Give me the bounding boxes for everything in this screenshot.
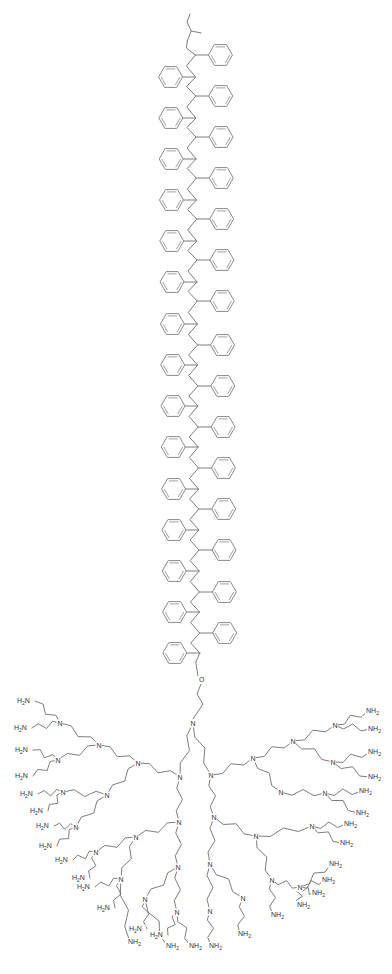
aromatic-double-bond: [215, 550, 220, 558]
aromatic-double-bond: [176, 159, 181, 167]
aminopropyl-bond: [325, 789, 361, 795]
aromatic-double-bond: [179, 653, 184, 661]
propyl-bond: [136, 822, 179, 837]
phenyl-ring-right: [210, 250, 234, 271]
nitrogen-atom-label: N: [212, 814, 217, 821]
aromatic-double-bond: [179, 530, 184, 538]
nitrogen-atom-label: N: [323, 790, 328, 797]
aromatic-double-bond: [164, 447, 169, 455]
phenyl-ring-right: [212, 540, 236, 561]
aromatic-double-bond: [213, 301, 218, 309]
aromatic-double-bond: [162, 241, 167, 249]
nitrogen-atom-label: N: [298, 884, 303, 891]
aromatic-double-bond: [225, 55, 230, 63]
aromatic-double-bond: [214, 468, 219, 476]
phenyl-ring-left: [159, 108, 183, 129]
nitrogen-atom-label: N: [74, 824, 79, 831]
aromatic-double-bond: [226, 137, 231, 145]
phenyl-ring-right: [211, 417, 235, 438]
aromatic-double-bond: [176, 200, 181, 208]
aromatic-double-bond: [179, 571, 184, 579]
nitrogen-atom-label: N: [191, 720, 196, 727]
oxygen-atom-label: O: [199, 676, 205, 683]
aminopropyl-bond: [333, 762, 370, 777]
aromatic-double-bond: [163, 324, 168, 332]
aminopropyl-bond: [333, 752, 370, 762]
nitrogen-atom-label: N: [241, 895, 246, 902]
nitrogen-atom-label: N: [177, 819, 182, 826]
aminopropyl-bond: [269, 880, 275, 915]
aromatic-double-bond: [213, 345, 218, 353]
aromatic-double-bond: [162, 159, 167, 167]
aromatic-double-bond: [177, 324, 182, 332]
propyl-bond: [256, 836, 272, 880]
aromatic-double-bond: [227, 301, 232, 309]
propyl-bond: [207, 864, 213, 911]
phenyl-ring-right: [209, 127, 233, 148]
phenyl-ring-left: [160, 272, 184, 293]
phenyl-ring-right: [208, 45, 232, 66]
nitrogen-atom-label: N: [291, 738, 296, 745]
aromatic-double-bond: [165, 612, 170, 620]
propyl-bond: [63, 790, 107, 797]
aminopropyl-bond: [325, 793, 358, 813]
propyl-bond: [208, 817, 215, 864]
aromatic-double-bond: [178, 447, 183, 455]
aromatic-double-bond: [178, 406, 183, 414]
propyl-bond: [253, 758, 281, 792]
phenyl-ring-right: [210, 291, 234, 312]
nitrogen-atom-label: N: [56, 757, 61, 764]
aromatic-double-bond: [214, 509, 219, 517]
aromatic-double-bond: [162, 200, 167, 208]
nitrogen-atom-label: N: [208, 908, 213, 915]
nitrogen-atom-label: N: [97, 742, 102, 749]
phenyl-ring-left: [160, 314, 184, 335]
aromatic-double-bond: [227, 260, 232, 268]
linker-bond: [193, 684, 203, 719]
phenyl-ring-right: [213, 623, 237, 644]
aminopropyl-bond: [238, 898, 245, 934]
aromatic-double-bond: [179, 612, 184, 620]
aromatic-double-bond: [213, 260, 218, 268]
aromatic-double-bond: [161, 77, 166, 85]
phenyl-ring-right: [211, 335, 235, 356]
aromatic-double-bond: [226, 178, 231, 186]
nitrogen-atom-label: N: [105, 792, 110, 799]
aromatic-double-bond: [228, 468, 233, 476]
aromatic-double-bond: [211, 96, 216, 104]
aromatic-double-bond: [229, 592, 234, 600]
aromatic-double-bond: [228, 427, 233, 435]
nitrogen-atom-label: N: [209, 772, 214, 779]
propyl-bond: [214, 817, 256, 836]
aromatic-double-bond: [164, 406, 169, 414]
phenyl-ring-left: [162, 561, 186, 582]
propyl-bond: [281, 790, 325, 796]
propyl-bond: [253, 741, 293, 758]
propyl-bond: [256, 826, 312, 836]
aminopropyl-bond: [33, 760, 58, 776]
aminopropyl-bond: [33, 750, 58, 760]
phenyl-ring-right: [212, 582, 236, 603]
propyl-bond: [145, 867, 178, 899]
propyl-bond: [60, 723, 99, 745]
aminopropyl-bond: [32, 721, 60, 728]
nitrogen-atom-label: N: [175, 909, 180, 916]
aromatic-double-bond: [215, 592, 220, 600]
phenyl-ring-right: [209, 168, 233, 189]
aminopropyl-bond: [312, 822, 346, 828]
propyl-bond: [58, 745, 99, 760]
aromatic-double-bond: [226, 219, 231, 227]
aminopropyl-bond: [312, 826, 342, 843]
nitrogen-atom-label: N: [208, 861, 213, 868]
phenyl-ring-left: [161, 355, 185, 376]
aromatic-double-bond: [212, 137, 217, 145]
aromatic-double-bond: [228, 509, 233, 517]
aromatic-double-bond: [215, 633, 220, 641]
aromatic-double-bond: [164, 489, 169, 497]
aromatic-double-bond: [162, 118, 167, 126]
aromatic-double-bond: [213, 386, 218, 394]
phenyl-ring-left: [161, 396, 185, 417]
aromatic-double-bond: [175, 77, 180, 85]
aromatic-double-bond: [165, 571, 170, 579]
aminopropyl-bond: [177, 912, 191, 946]
